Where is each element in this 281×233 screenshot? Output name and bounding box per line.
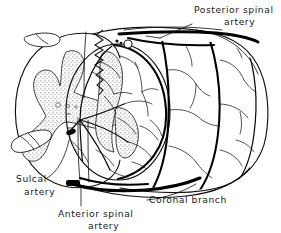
label-anterior-spinal-artery: Anterior spinal artery — [58, 208, 133, 231]
central-canal — [56, 103, 61, 108]
anterior-spinal-artery-cut-end — [66, 180, 80, 186]
sulcal-artery-label-line1: Sulcal — [16, 173, 47, 184]
anterior-spinal-artery-label-line2: artery — [88, 220, 119, 231]
anterior-spinal-artery-vessel — [66, 178, 200, 191]
vessel-cross-section-circle — [124, 40, 132, 48]
posterior-spinal-artery-label-line2: artery — [224, 16, 255, 27]
label-coronal-branch: Coronal branch — [149, 194, 227, 205]
posterior-spinal-artery-label-line1: Posterior spinal — [194, 4, 274, 15]
dorsal-rootlet — [24, 33, 60, 47]
figure-canvas: Posterior spinal artery Sulcal artery An… — [0, 0, 281, 233]
spinal-cord-arterial-supply-figure: Posterior spinal artery Sulcal artery An… — [0, 0, 281, 233]
coronal-branch-label-line1: Coronal branch — [149, 194, 227, 205]
label-posterior-spinal-artery: Posterior spinal artery — [194, 4, 274, 27]
coronal-branch-vessels — [152, 32, 256, 190]
leader-posterior-spinal-artery-2 — [146, 36, 160, 38]
cylinder-surface-branches — [168, 40, 256, 178]
sulcal-artery-label-line2: artery — [24, 186, 55, 197]
gray-matter-dorsal-column — [96, 52, 139, 158]
anterior-spinal-artery-label-line1: Anterior spinal — [58, 208, 133, 219]
leader-sulcal-artery — [47, 136, 70, 178]
